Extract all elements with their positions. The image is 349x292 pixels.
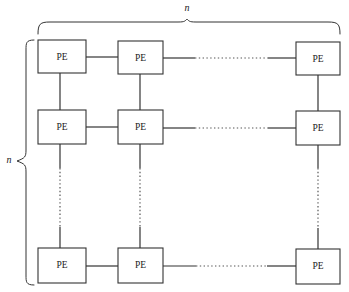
left-brace-label: n — [7, 154, 12, 165]
pe-node-r1c1[interactable]: PE — [38, 40, 86, 73]
pe-label: PE — [312, 261, 323, 271]
left-brace-path — [17, 40, 34, 285]
horizontal-connectors — [86, 57, 296, 266]
pe-node-r2c3[interactable]: PE — [296, 111, 340, 145]
top-brace-path — [38, 19, 340, 34]
pe-label: PE — [135, 122, 146, 132]
pe-label: PE — [135, 53, 146, 63]
pe-node-r2c2[interactable]: PE — [118, 110, 163, 144]
mesh-network-diagram: n n — [0, 0, 349, 292]
top-brace — [38, 19, 340, 34]
pe-node-r3c2[interactable]: PE — [118, 248, 163, 283]
pe-node-r3c1[interactable]: PE — [38, 248, 86, 283]
pe-label: PE — [135, 260, 146, 270]
pe-label: PE — [312, 54, 323, 64]
top-brace-label: n — [185, 2, 190, 13]
figure-canvas: n n — [0, 0, 349, 292]
pe-label: PE — [312, 123, 323, 133]
pe-label: PE — [56, 122, 67, 132]
pe-node-r3c3[interactable]: PE — [296, 249, 340, 284]
pe-node-r1c3[interactable]: PE — [296, 42, 340, 75]
pe-node-r1c2[interactable]: PE — [118, 41, 163, 74]
vertical-connectors — [60, 73, 318, 249]
left-brace — [17, 40, 34, 285]
pe-label: PE — [56, 52, 67, 62]
pe-node-r2c1[interactable]: PE — [38, 110, 86, 144]
pe-label: PE — [56, 260, 67, 270]
